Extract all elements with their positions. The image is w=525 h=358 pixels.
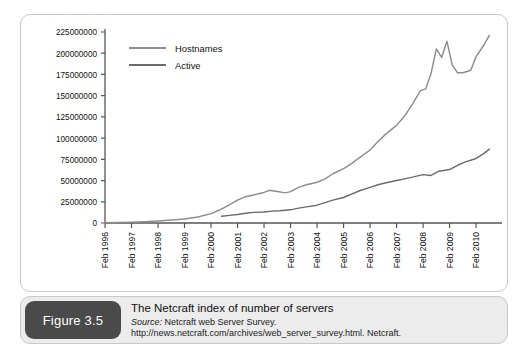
x-axis-tick-label: Feb 2004 <box>312 232 322 269</box>
y-axis-tick-label: 25000000 <box>61 198 98 207</box>
series-line-hostnames <box>105 35 489 222</box>
x-axis-tick-label: Feb 2008 <box>418 232 428 269</box>
x-axis-tick-label: Feb 2009 <box>445 232 455 269</box>
figure-source-detail: Netcraft web Server Survey. http://news.… <box>131 317 401 338</box>
y-axis-tick-label: 225000000 <box>56 28 97 37</box>
x-axis-tick-label: Feb 2005 <box>339 232 349 269</box>
x-axis-tick-label: Feb 2006 <box>365 232 375 269</box>
y-axis-tick-label: 0 <box>92 219 97 228</box>
figure-title: The Netcraft index of number of servers <box>131 302 499 316</box>
x-axis-tick-label: Feb 1999 <box>180 232 190 269</box>
chart-series-group <box>105 35 489 222</box>
y-axis-tick-label: 50000000 <box>61 177 98 186</box>
figure-root: 0250000005000000075000000100000000125000… <box>0 0 525 358</box>
legend-label-hostnames: Hostnames <box>175 43 223 54</box>
figure-caption-text: The Netcraft index of number of servers … <box>121 297 507 343</box>
x-axis-tick-label: Feb 2002 <box>259 232 269 269</box>
x-axis-tick-label: Feb 2001 <box>233 232 243 269</box>
figure-source-label: Source: <box>131 317 162 327</box>
x-axis-tick-label: Feb 1996 <box>100 232 110 269</box>
figure-number-label: Figure 3.5 <box>43 313 104 328</box>
series-line-active <box>222 149 490 216</box>
figure-number-badge: Figure 3.5 <box>25 301 121 339</box>
y-axis-tick-label: 75000000 <box>61 156 98 165</box>
y-axis-tick-label: 150000000 <box>56 92 97 101</box>
y-axis-tick-label: 200000000 <box>56 50 97 59</box>
x-axis-tick-label: Feb 2007 <box>392 232 402 269</box>
figure-caption-bar: Figure 3.5 The Netcraft index of number … <box>20 296 508 344</box>
x-axis-tick-label: Feb 2000 <box>206 232 216 269</box>
y-axis: 0250000005000000075000000100000000125000… <box>56 28 105 228</box>
figure-source: Source: Netcraft web Server Survey. http… <box>131 317 499 339</box>
line-chart: 0250000005000000075000000100000000125000… <box>21 15 507 291</box>
x-axis-tick-label: Feb 2003 <box>286 232 296 269</box>
y-axis-tick-label: 125000000 <box>56 113 97 122</box>
x-axis-tick-label: Feb 2010 <box>471 232 481 269</box>
x-axis: Feb 1996Feb 1997Feb 1998Feb 1999Feb 2000… <box>100 223 502 268</box>
y-axis-tick-label: 100000000 <box>56 135 97 144</box>
x-axis-tick-label: Feb 1997 <box>127 232 137 269</box>
y-axis-tick-label: 175000000 <box>56 71 97 80</box>
x-axis-tick-label: Feb 1998 <box>153 232 163 269</box>
chart-legend: HostnamesActive <box>129 43 223 71</box>
chart-panel: 0250000005000000075000000100000000125000… <box>20 14 508 292</box>
legend-label-active: Active <box>175 60 201 71</box>
